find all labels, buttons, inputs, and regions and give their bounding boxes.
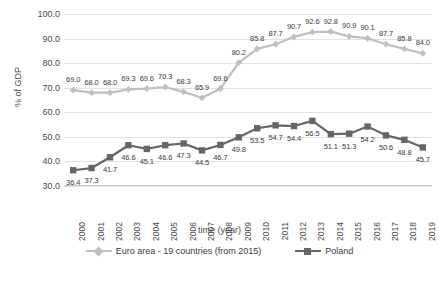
data-point-label: 53.5 [250,136,264,145]
data-point-label: 54.7 [268,133,282,142]
series-layer [64,14,432,186]
data-point-label: 90.7 [287,21,301,30]
data-point-label: 90.1 [360,23,374,32]
data-point-label: 85.8 [250,33,264,42]
data-point-marker [401,137,407,143]
data-point-label: 68.0 [103,77,117,86]
data-point-marker [291,33,298,40]
legend-label: Euro area - 19 countries (from 2015) [116,246,262,256]
legend-swatch-icon [86,246,112,256]
y-tick-label: 70.0 [20,83,60,93]
data-point-marker [346,130,352,136]
data-point-marker [107,154,113,160]
data-point-label: 54.2 [360,134,374,143]
data-point-marker [272,41,279,48]
legend-swatch-icon [295,246,321,256]
data-point-marker [162,142,168,148]
data-point-marker [143,85,150,92]
data-point-marker [254,125,260,131]
legend-item-poland[interactable]: Poland [295,246,353,256]
data-point-label: 54.4 [287,134,301,143]
y-axis-tick-labels: 30.040.050.060.070.080.090.0100.0 [20,14,60,186]
series-euro-area [70,28,426,101]
data-point-label: 80.2 [232,47,246,56]
y-tick-label: 80.0 [20,58,60,68]
data-point-label: 51.3 [342,141,356,150]
data-point-label: 49.8 [232,145,246,154]
data-point-label: 45.7 [416,155,430,164]
data-point-label: 90.9 [342,21,356,30]
data-point-marker [125,142,131,148]
data-point-marker [162,84,169,91]
data-point-label: 87.7 [379,29,393,38]
data-point-marker [70,167,76,173]
data-point-label: 50.6 [379,143,393,152]
x-axis-title: time (year) [0,225,439,235]
data-point-marker [236,134,242,140]
data-point-marker [419,50,426,57]
data-point-label: 69.0 [66,75,80,84]
data-point-marker [107,89,114,96]
data-point-label: 68.3 [176,76,190,85]
data-point-marker [88,89,95,96]
data-point-marker [70,87,77,94]
x-axis-tick-labels: 2000200120022003200420052006200720082009… [64,188,432,224]
data-point-label: 47.3 [176,151,190,160]
data-point-label: 68.0 [84,77,98,86]
data-point-marker [401,45,408,52]
series-poland [70,118,426,174]
data-point-label: 92.6 [305,17,319,26]
data-point-marker [383,132,389,138]
y-tick-label: 40.0 [20,156,60,166]
data-point-marker [125,86,132,93]
data-point-marker [309,29,316,36]
data-point-label: 85.8 [397,33,411,42]
data-point-marker [272,122,278,128]
data-point-marker [309,118,315,124]
plot-area: 69.068.068.069.369.670.368.365.969.680.2… [64,14,432,186]
data-point-marker [180,88,187,95]
data-point-label: 87.7 [268,29,282,38]
data-point-label: 37.3 [84,176,98,185]
data-point-marker [328,131,334,137]
data-point-label: 70.3 [158,71,172,80]
data-point-marker [144,146,150,152]
y-tick-label: 50.0 [20,132,60,142]
y-tick-label: 100.0 [20,9,60,19]
data-point-label: 65.9 [195,82,209,91]
data-point-label: 46.6 [158,153,172,162]
data-point-label: 44.5 [195,158,209,167]
y-tick-label: 90.0 [20,34,60,44]
gridline [64,186,432,187]
data-point-marker [383,41,390,48]
legend-item-euro-area[interactable]: Euro area - 19 countries (from 2015) [86,246,262,256]
data-point-label: 46.7 [213,152,227,161]
data-point-label: 36.4 [66,178,80,187]
y-tick-label: 60.0 [20,107,60,117]
data-point-label: 48.8 [397,147,411,156]
data-point-label: 84.0 [416,38,430,47]
data-point-marker [364,35,371,42]
data-point-marker [199,147,205,153]
data-point-label: 41.7 [103,165,117,174]
series-line [73,32,423,98]
data-point-label: 51.1 [324,142,338,151]
chart-container: % of GDP 30.040.050.060.070.080.090.0100… [0,0,439,281]
legend-label: Poland [325,246,353,256]
data-point-marker [217,142,223,148]
data-point-marker [180,140,186,146]
data-point-marker [88,165,94,171]
data-point-marker [291,123,297,129]
data-point-marker [327,28,334,35]
data-point-label: 45.1 [140,156,154,165]
data-point-label: 69.6 [140,73,154,82]
data-point-label: 92.8 [324,16,338,25]
data-point-marker [346,33,353,40]
y-tick-label: 30.0 [20,181,60,191]
data-point-label: 56.5 [305,128,319,137]
chart-legend: Euro area - 19 countries (from 2015)Pola… [0,246,439,256]
data-point-label: 69.3 [121,74,135,83]
data-point-label: 46.6 [121,153,135,162]
data-point-marker [364,123,370,129]
data-point-label: 69.6 [213,73,227,82]
